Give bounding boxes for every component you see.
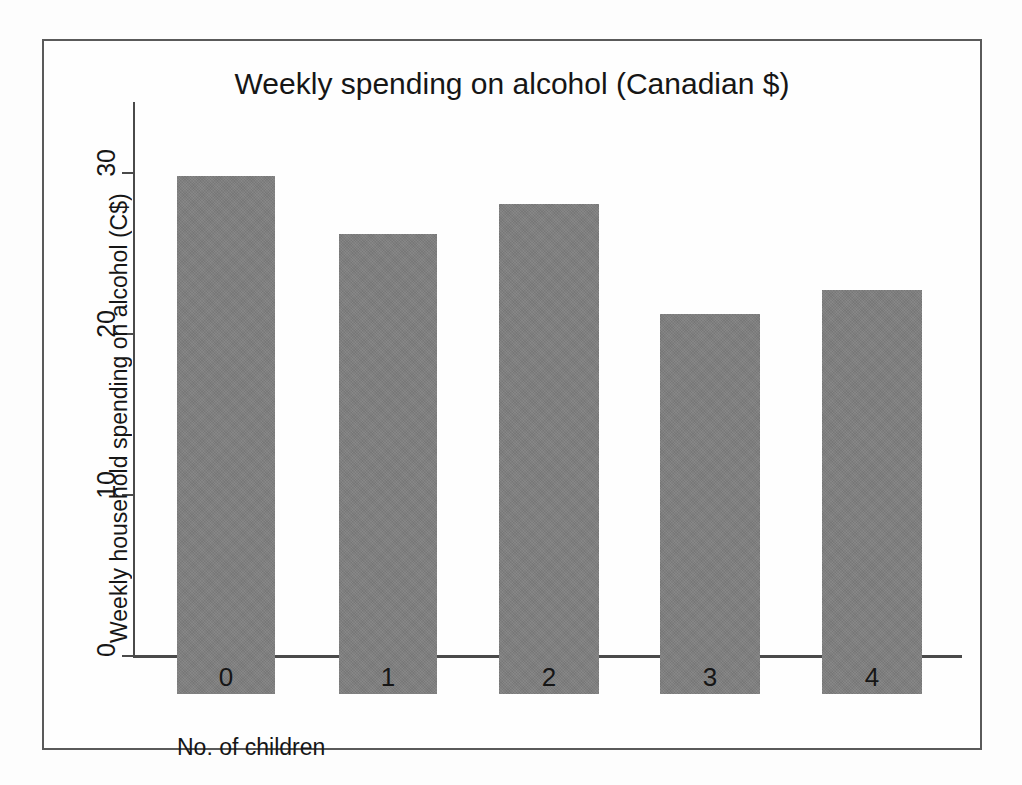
x-tick-label-4: 4 bbox=[865, 662, 879, 692]
bar-children-1 bbox=[339, 234, 437, 694]
y-tick-mark bbox=[122, 172, 133, 174]
y-tick-mark bbox=[122, 655, 133, 657]
x-tick-label-2: 2 bbox=[542, 662, 556, 692]
bar-children-4 bbox=[822, 290, 922, 694]
x-tick-label-0: 0 bbox=[219, 662, 233, 692]
chart-title: Weekly spending on alcohol (Canadian $) bbox=[44, 66, 980, 102]
x-tick-label-1: 1 bbox=[381, 662, 395, 692]
bar-children-3 bbox=[660, 314, 760, 694]
x-axis-title: No. of children bbox=[177, 733, 325, 761]
chart-frame: Weekly spending on alcohol (Canadian $) … bbox=[42, 39, 982, 750]
y-axis-title: Weekly household spending on alcohol (C$… bbox=[102, 183, 136, 653]
plot-area: 0 10 20 30 0 1 2 3 bbox=[133, 102, 962, 694]
x-tick-label-3: 3 bbox=[703, 662, 717, 692]
chart-figure: Weekly spending on alcohol (Canadian $) … bbox=[0, 0, 1022, 785]
y-tick-label: 30 bbox=[94, 149, 119, 177]
bar-children-0 bbox=[177, 176, 275, 694]
bar-children-2 bbox=[499, 204, 599, 694]
